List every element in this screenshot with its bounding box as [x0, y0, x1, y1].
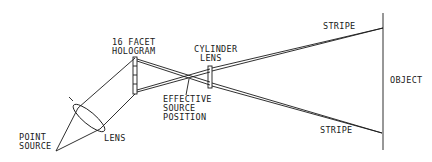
hologram-label: 16 FACET HOLOGRAM — [112, 38, 155, 56]
lens-label: LENS — [104, 134, 126, 143]
arrow-icon — [69, 97, 73, 101]
beam-lower-b — [137, 69, 210, 90]
beam-to-stripe-bottom-b — [212, 86, 382, 133]
hologram-bar — [133, 57, 137, 94]
beam-lower-a — [137, 72, 210, 92]
ray-source-lower — [56, 129, 100, 151]
diagram-canvas — [0, 0, 432, 162]
stripe-top-label: STRIPE — [323, 22, 356, 31]
beam-to-stripe-top-b — [212, 28, 383, 71]
ray-lens-upper — [78, 58, 135, 108]
effective-source-label: EFFECTIVE SOURCE POSITION — [163, 95, 212, 122]
optical-diagram: 16 FACET HOLOGRAM CYLINDER LENS STRIPE S… — [0, 0, 432, 162]
beam-upper-b — [137, 61, 210, 85]
lens-ellipse — [70, 101, 108, 136]
ray-lens-lower — [100, 94, 135, 129]
cylinder-lens-label: CYLINDER LENS — [194, 45, 237, 63]
point-source-label: POINT SOURCE — [19, 133, 52, 151]
object-label: OBJECT — [390, 76, 423, 85]
ray-source-upper — [56, 108, 78, 151]
effective-source-pointer — [186, 79, 189, 95]
stripe-bottom-label: STRIPE — [320, 126, 353, 135]
